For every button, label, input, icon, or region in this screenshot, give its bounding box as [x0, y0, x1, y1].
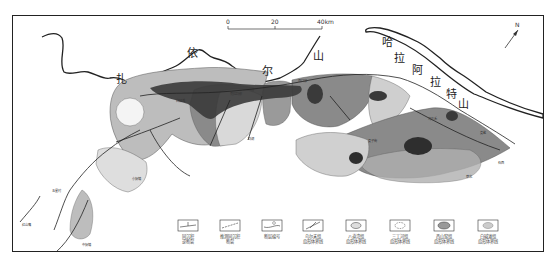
svg-text:扇形体界线: 扇形体界线 [390, 238, 411, 245]
place-label: 石西 [498, 161, 504, 165]
core-wuerhe [369, 91, 387, 101]
fan-boundary-light-icon [483, 223, 493, 229]
core-baikouquan [307, 84, 323, 104]
svg-text:断裂: 断裂 [226, 238, 234, 245]
legend-item-fault-number: 断层编号 [262, 220, 282, 240]
lake-white [116, 98, 144, 126]
label-yi: 依 [187, 47, 198, 60]
scale-tick-20: 20 [271, 18, 279, 25]
svg-text:扇形体界线: 扇形体界线 [478, 238, 499, 245]
label-te: 特 [446, 87, 457, 101]
svg-text:扇形体界线: 扇形体界线 [346, 238, 367, 245]
label-er: 尔 [262, 65, 273, 78]
core-east [404, 137, 432, 155]
place-label: 玛湖 [248, 136, 254, 141]
label-zha: 扎 [116, 72, 127, 86]
place-label: 五星村 [52, 188, 62, 193]
label-la: 拉 [394, 51, 405, 65]
fan-boundary-shaded-icon [438, 222, 450, 229]
label-shan1: 山 [313, 50, 324, 63]
scale-tick-40km: 40km [317, 18, 334, 25]
scale-tick-0: 0 [226, 18, 230, 25]
svg-text:逆断裂: 逆断裂 [182, 238, 194, 245]
place-label: 莫北 [466, 174, 473, 179]
place-label: 白碱滩 [176, 98, 186, 103]
place-label: 夏盐 [480, 130, 487, 135]
svg-text:扇形体界线: 扇形体界线 [303, 238, 324, 245]
core-south [349, 152, 363, 164]
north-label: N [515, 21, 520, 28]
label-la2: 拉 [430, 75, 441, 89]
label-a: 阿 [412, 64, 423, 77]
place-label: 中拐镇 [82, 242, 92, 247]
place-label: 小拐镇 [132, 176, 142, 181]
svg-text:断层编号: 断层编号 [264, 233, 280, 240]
fan-boundary-solid-icon [351, 223, 361, 229]
label-ha: 哈 [382, 36, 393, 49]
svg-text:扇形体界线: 扇形体界线 [434, 238, 455, 245]
place-label: 克拉玛依 [230, 91, 243, 96]
label-shan2: 山 [458, 98, 469, 111]
place-label: 乌尔禾 [428, 116, 438, 121]
core-shixi [446, 111, 458, 121]
place-label: 红山嘴 [22, 222, 32, 227]
place-label: 夏子街 [368, 138, 378, 143]
geologic-map: 0 20 40km N 扎 依 [0, 0, 553, 260]
place-label: 百口泉 [298, 78, 308, 83]
